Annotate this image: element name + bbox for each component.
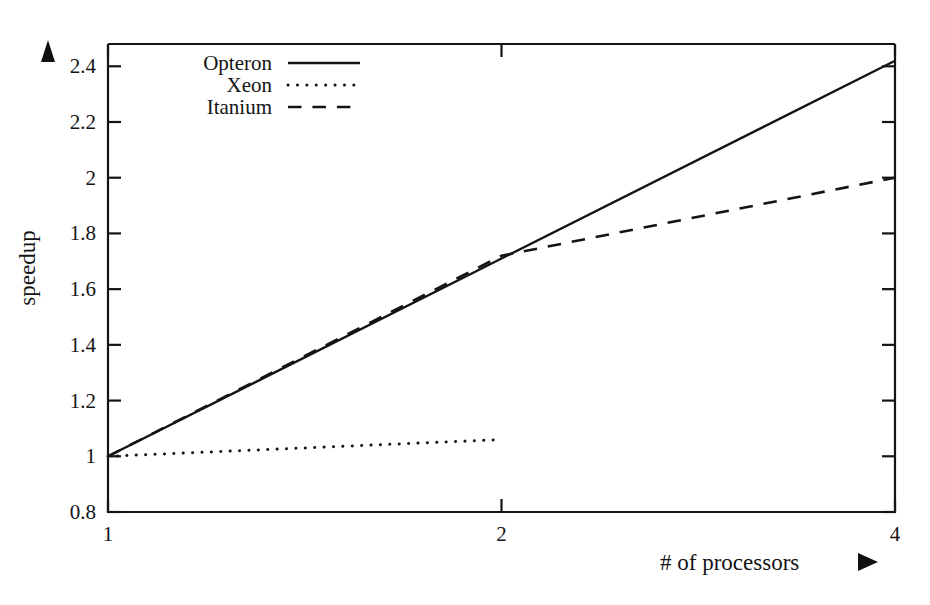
series-line-xeon — [108, 440, 502, 457]
data-series — [108, 61, 895, 457]
legend-key-samples — [288, 63, 360, 107]
plot-canvas — [0, 0, 930, 605]
series-line-itanium — [108, 178, 895, 457]
speedup-line-chart: speedup # of processors 0.811.21.41.61.8… — [0, 0, 930, 605]
plot-frame — [108, 44, 895, 512]
axis-ticks — [108, 44, 895, 512]
